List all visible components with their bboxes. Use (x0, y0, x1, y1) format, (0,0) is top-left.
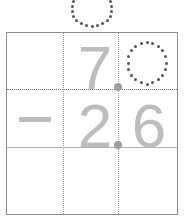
trace-dot (146, 83, 149, 86)
trace-dot (164, 55, 167, 58)
trace-dot (71, 10, 74, 13)
trace-dot (157, 78, 160, 81)
trace-dot (109, 15, 112, 18)
trace-dot (127, 55, 130, 58)
trace-dot (101, 22, 104, 25)
trace-dot (161, 49, 164, 52)
trace-dot (146, 41, 149, 44)
trace-dot (110, 5, 113, 8)
trace-dot (85, 24, 88, 27)
trace-dot (96, 24, 99, 27)
worksheet-grid: 7 2 6 (6, 32, 178, 215)
subtraction-worksheet: 7 2 6 (0, 0, 184, 223)
trace-dot (134, 45, 137, 48)
trace-dot (140, 42, 143, 45)
trace-dot (72, 0, 75, 3)
trace-dot (134, 78, 137, 81)
trace-dot (164, 68, 167, 71)
trace-dot (165, 62, 168, 65)
trace-dot (130, 49, 133, 52)
trace-dot (109, 0, 112, 3)
trace-dot (127, 68, 130, 71)
trace-dot (71, 5, 74, 8)
trace-dot (157, 45, 160, 48)
minus-operator-icon (19, 117, 51, 122)
trace-dot (151, 42, 154, 45)
dotted-zero-trace-top (69, 0, 115, 29)
trace-dot (140, 81, 143, 84)
trace-dot (110, 10, 113, 13)
trace-dot (80, 22, 83, 25)
trace-dot (75, 19, 78, 22)
minuend-ones-digit: 7 (73, 37, 117, 99)
trace-dot (130, 74, 133, 77)
minuend-decimal-point (114, 83, 122, 91)
carry-row (0, 0, 184, 32)
trace-dot (91, 25, 94, 28)
minuend-tenths-dotted-zero (125, 39, 169, 87)
answer-row[interactable] (7, 148, 177, 214)
trace-dot (106, 19, 109, 22)
trace-dot (151, 81, 154, 84)
trace-dot (127, 62, 130, 65)
trace-dot (72, 15, 75, 18)
trace-dot (161, 74, 164, 77)
